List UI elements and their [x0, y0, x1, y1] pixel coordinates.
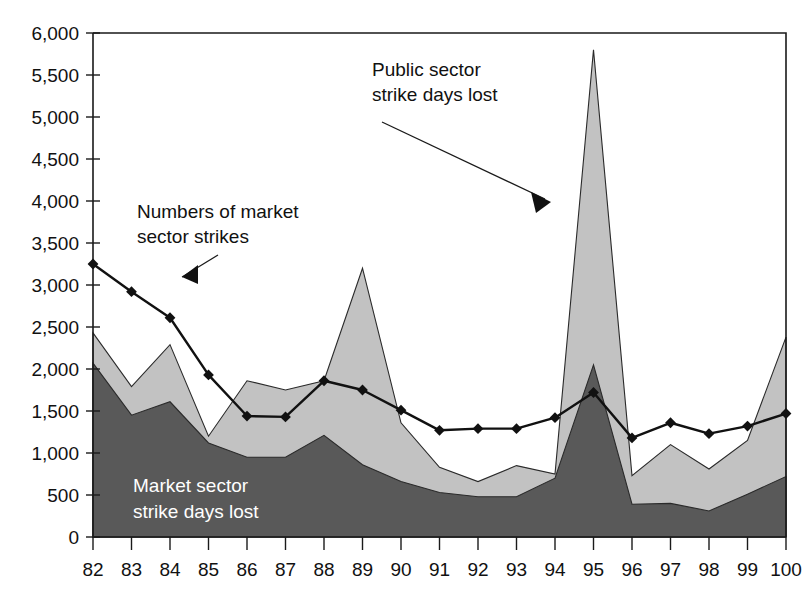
- x-tick-label: 92: [467, 559, 488, 580]
- y-tick-label: 6,000: [31, 23, 79, 44]
- x-tick-label: 86: [236, 559, 257, 580]
- x-tick-label: 98: [698, 559, 719, 580]
- annotation-market-strikes-line1: Numbers of market: [137, 201, 299, 222]
- annotation-market-days-line2: strike days lost: [133, 501, 259, 522]
- y-tick-label: 4,000: [31, 191, 79, 212]
- x-tick-label: 100: [770, 559, 802, 580]
- x-tick-label: 94: [544, 559, 566, 580]
- y-tick-label: 500: [47, 485, 79, 506]
- x-tick-label: 87: [275, 559, 296, 580]
- x-tick-label: 91: [429, 559, 450, 580]
- chart-canvas: 05001,0001,5002,0002,5003,0003,5004,0004…: [0, 0, 809, 600]
- x-tick-label: 90: [390, 559, 411, 580]
- y-tick-label: 5,500: [31, 65, 79, 86]
- strike-statistics-chart: 05001,0001,5002,0002,5003,0003,5004,0004…: [0, 0, 809, 600]
- x-tick-label: 88: [313, 559, 334, 580]
- x-tick-label: 93: [506, 559, 527, 580]
- y-tick-label: 1,500: [31, 401, 79, 422]
- y-tick-label: 4,500: [31, 149, 79, 170]
- y-tick-label: 0: [68, 527, 79, 548]
- y-tick-label: 3,000: [31, 275, 79, 296]
- y-tick-label: 3,500: [31, 233, 79, 254]
- x-tick-label: 99: [737, 559, 758, 580]
- x-tick-label: 97: [660, 559, 681, 580]
- annotation-public-sector-line2: strike days lost: [372, 84, 498, 105]
- x-tick-label: 95: [583, 559, 604, 580]
- annotation-market-days-line1: Market sector: [133, 475, 249, 496]
- y-tick-label: 1,000: [31, 443, 79, 464]
- x-tick-label: 85: [198, 559, 219, 580]
- x-tick-label: 96: [621, 559, 642, 580]
- x-tick-label: 89: [352, 559, 373, 580]
- x-tick-label: 84: [159, 559, 181, 580]
- y-tick-label: 5,000: [31, 107, 79, 128]
- y-tick-label: 2,500: [31, 317, 79, 338]
- annotation-market-strikes-line2: sector strikes: [137, 226, 249, 247]
- y-tick-label: 2,000: [31, 359, 79, 380]
- x-tick-label: 83: [121, 559, 142, 580]
- annotation-public-sector-line1: Public sector: [372, 59, 481, 80]
- x-tick-label: 82: [82, 559, 103, 580]
